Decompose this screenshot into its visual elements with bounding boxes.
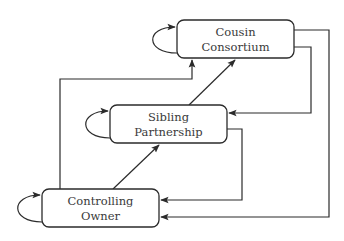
node-label-line2: Owner: [81, 209, 120, 223]
self-loop-cousin: [153, 27, 177, 53]
edge-controlling-to-sibling: [113, 145, 159, 189]
node-label-line1: Sibling: [148, 110, 190, 124]
node-sibling-partnership: Sibling Partnership: [110, 105, 227, 143]
edge-sibling-to-cousin: [189, 60, 235, 105]
node-label-line2: Partnership: [134, 125, 202, 139]
node-label-line1: Cousin: [215, 25, 256, 39]
node-controlling-owner: Controlling Owner: [42, 189, 159, 227]
node-label-line1: Controlling: [68, 194, 135, 208]
node-label-line2: Consortium: [201, 40, 269, 54]
self-loop-controlling: [18, 195, 42, 222]
ownership-transition-diagram: Cousin Consortium Sibling Partnership Co…: [0, 0, 344, 241]
self-loop-sibling: [86, 111, 110, 138]
node-cousin-consortium: Cousin Consortium: [177, 20, 294, 58]
